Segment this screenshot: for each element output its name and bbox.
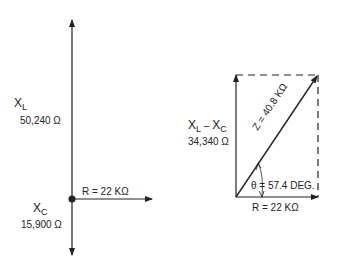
net-reactance-value: 34,340 Ω xyxy=(188,136,229,148)
r-label-right: R = 22 KΩ xyxy=(252,202,299,214)
xl-value: 50,240 Ω xyxy=(20,115,61,127)
xc-value: 15,900 Ω xyxy=(21,219,62,231)
xc-label: XC xyxy=(33,202,48,218)
origin-dot xyxy=(69,196,76,203)
net-reactance-label: XL – XC xyxy=(188,119,227,135)
xl-label: XL xyxy=(14,97,27,113)
r-label-left: R = 22 KΩ xyxy=(82,186,129,198)
phasor-diagrams xyxy=(0,0,338,274)
left-phasor-diagram xyxy=(69,20,153,255)
theta-label: θ = 57.4 DEG. xyxy=(251,180,315,192)
